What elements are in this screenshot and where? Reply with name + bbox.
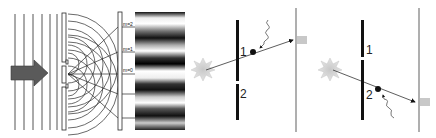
panel-particle-slit-2: 1 2 bbox=[318, 8, 430, 132]
particle-path bbox=[206, 40, 293, 70]
panel-particle-slit-1: 1 2 bbox=[191, 8, 307, 132]
particle-dot bbox=[250, 49, 256, 55]
slit-label-1: 1 bbox=[240, 45, 247, 59]
slit-label-2: 2 bbox=[366, 88, 373, 102]
slit-barrier bbox=[361, 20, 364, 120]
arrow-right-icon bbox=[11, 60, 48, 86]
grating-screen bbox=[118, 12, 122, 130]
circular-wavefronts bbox=[68, 14, 118, 135]
detection-spot bbox=[297, 36, 307, 44]
photon-wavy-icon bbox=[383, 95, 394, 118]
slit-barrier bbox=[236, 20, 239, 120]
source-burst-icon bbox=[318, 58, 342, 81]
detection-spot bbox=[420, 98, 430, 106]
double-slit-barrier bbox=[62, 13, 68, 130]
double-slit-diagram: m=2 m=1 m=0 1 2 bbox=[0, 0, 436, 138]
interference-fringes bbox=[135, 12, 185, 130]
order-label-m0: m=0 bbox=[123, 67, 133, 73]
panel-wave-interference: m=2 m=1 m=0 bbox=[11, 12, 185, 135]
order-label-m1: m=1 bbox=[123, 46, 133, 52]
slit-label-2: 2 bbox=[240, 87, 247, 101]
order-label-m2: m=2 bbox=[123, 21, 133, 27]
photon-wavy-icon bbox=[260, 20, 269, 48]
particle-path bbox=[333, 70, 415, 102]
slit-label-1: 1 bbox=[366, 43, 373, 57]
particle-dot bbox=[375, 86, 381, 92]
source-burst-icon bbox=[191, 58, 215, 81]
